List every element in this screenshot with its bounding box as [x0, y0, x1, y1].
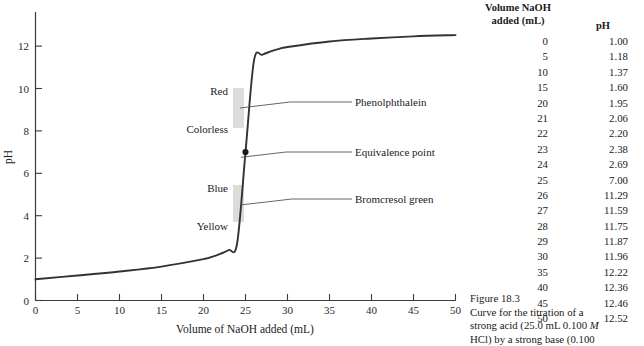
caption-line-2-text: strong acid (25.0 mL 0.100	[470, 319, 590, 331]
titration-data-table: Volume NaOH added (mL) pH 01.0051.18101.…	[462, 0, 644, 290]
cell-ph: 2.06	[578, 113, 634, 124]
caption-line-3: HCl) by a strong base (0.100	[470, 333, 644, 346]
table-row: 101.37	[462, 67, 644, 82]
caption-line-2: strong acid (25.0 mL 0.100 M	[470, 319, 644, 333]
cell-volume: 15	[470, 82, 566, 93]
annotation-phenolphthalein: Phenolphthalein	[355, 96, 427, 108]
cell-volume: 5	[470, 51, 566, 62]
y-axis-title: pH	[2, 150, 15, 164]
table-row: 212.06	[462, 113, 644, 128]
y-tick-10: 10	[18, 83, 30, 95]
x-axis-tick-labels: 0 5 10 15 20 25 30 35 40 45 50	[33, 304, 462, 316]
cell-volume: 21	[470, 113, 566, 124]
cell-volume: 26	[470, 190, 566, 201]
table-row: 2711.59	[462, 205, 644, 220]
cell-ph: 1.37	[578, 67, 634, 78]
y-tick-12: 12	[18, 40, 29, 52]
chart-svg: 0 2 4 6 8 10 12 pH 0 5 10	[0, 0, 462, 344]
annotation-blue: Blue	[207, 182, 228, 194]
cell-volume: 25	[470, 175, 566, 186]
cell-volume: 24	[470, 159, 566, 170]
cell-ph: 11.29	[578, 190, 634, 201]
x-axis-ticks	[36, 294, 456, 301]
x-tick-10: 10	[114, 304, 126, 316]
caption-line-1: Curve for the titration of a	[470, 306, 644, 320]
x-tick-35: 35	[324, 304, 336, 316]
cell-ph: 7.00	[578, 175, 634, 186]
y-tick-2: 2	[24, 252, 30, 264]
table-row: 3011.96	[462, 251, 644, 266]
table-row: 257.00	[462, 175, 644, 190]
table-row: 201.95	[462, 98, 644, 113]
cell-volume: 28	[470, 221, 566, 232]
table-row: 232.38	[462, 144, 644, 159]
table-header: Volume NaOH added (mL) pH	[462, 0, 644, 36]
equivalence-leader	[241, 152, 352, 157]
table-header-volume: Volume NaOH added (mL)	[470, 2, 566, 28]
x-tick-30: 30	[282, 304, 294, 316]
cell-volume: 0	[470, 36, 566, 47]
bromcresol-leader	[240, 199, 352, 205]
annotation-leader-lines	[240, 102, 352, 205]
x-tick-40: 40	[366, 304, 378, 316]
titration-chart: 0 2 4 6 8 10 12 pH 0 5 10	[0, 0, 462, 344]
x-axis-title: Volume of NaOH added (mL)	[176, 323, 314, 336]
x-tick-25: 25	[240, 304, 252, 316]
cell-volume: 35	[470, 267, 566, 278]
cell-ph: 12.22	[578, 267, 634, 278]
cell-ph: 1.00	[578, 36, 634, 47]
table-header-volume-line2: added (mL)	[470, 15, 566, 28]
annotation-red: Red	[210, 85, 228, 97]
phenolphthalein-leader	[240, 102, 352, 108]
y-tick-0: 0	[24, 295, 30, 307]
x-tick-15: 15	[156, 304, 168, 316]
cell-ph: 1.18	[578, 51, 634, 62]
cell-ph: 1.60	[578, 82, 634, 93]
table-header-ph: pH	[578, 21, 628, 32]
table-row: 51.18	[462, 51, 644, 66]
y-axis-ticks	[36, 46, 43, 300]
cell-ph: 2.20	[578, 128, 634, 139]
annotation-yellow: Yellow	[197, 220, 228, 232]
annotation-bromcresol-green: Bromcresol green	[355, 193, 434, 205]
table-row: 242.69	[462, 159, 644, 174]
cell-volume: 10	[470, 67, 566, 78]
y-tick-4: 4	[24, 210, 30, 222]
cell-ph: 2.38	[578, 144, 634, 155]
table-row: 01.00	[462, 36, 644, 51]
cell-ph: 11.59	[578, 205, 634, 216]
cell-ph: 11.87	[578, 236, 634, 247]
table-row: 2611.29	[462, 190, 644, 205]
annotation-colorless: Colorless	[186, 123, 228, 135]
x-tick-20: 20	[198, 304, 210, 316]
table-row: 222.20	[462, 128, 644, 143]
annotation-equivalence-point: Equivalence point	[355, 146, 435, 158]
cell-volume: 22	[470, 128, 566, 139]
x-tick-50: 50	[450, 304, 462, 316]
caption-molarity-symbol: M	[590, 319, 599, 331]
caption-number: Figure 18.3	[470, 292, 644, 306]
table-body: 01.0051.18101.37151.60201.95212.06222.20…	[462, 36, 644, 328]
table-row: 2911.87	[462, 236, 644, 251]
y-tick-6: 6	[24, 167, 30, 179]
cell-ph: 11.75	[578, 221, 634, 232]
cell-volume: 30	[470, 251, 566, 262]
y-tick-8: 8	[24, 125, 30, 137]
cell-volume: 29	[470, 236, 566, 247]
x-tick-5: 5	[75, 304, 81, 316]
table-header-volume-line1: Volume NaOH	[470, 2, 566, 15]
cell-volume: 23	[470, 144, 566, 155]
table-row: 2811.75	[462, 221, 644, 236]
x-tick-0: 0	[33, 304, 39, 316]
y-axis-tick-labels: 0 2 4 6 8 10 12	[18, 40, 30, 306]
table-row: 151.60	[462, 82, 644, 97]
figure-caption: Figure 18.3 Curve for the titration of a…	[470, 292, 644, 346]
cell-volume: 27	[470, 205, 566, 216]
cell-ph: 1.95	[578, 98, 634, 109]
cell-volume: 20	[470, 98, 566, 109]
table-row: 3512.22	[462, 267, 644, 282]
equivalence-point-marker	[242, 149, 248, 155]
cell-ph: 11.96	[578, 251, 634, 262]
cell-ph: 2.69	[578, 159, 634, 170]
x-tick-45: 45	[408, 304, 420, 316]
